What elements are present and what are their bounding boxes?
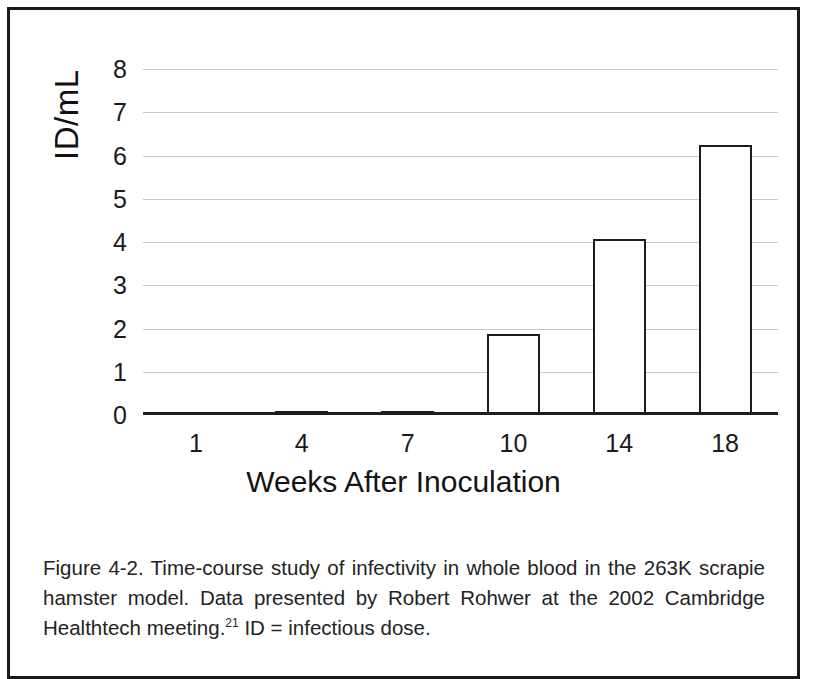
x-tick-label: 18 — [711, 429, 739, 458]
y-tick-label: 4 — [113, 228, 127, 257]
gridline — [143, 156, 778, 157]
x-tick-label: 4 — [295, 429, 309, 458]
y-axis-title: ID/mL — [48, 69, 86, 160]
y-tick-label: 3 — [113, 271, 127, 300]
y-tick-label: 0 — [113, 401, 127, 430]
gridline — [143, 69, 778, 70]
chart-area: ID/mL 012345678 147101418 Weeks After In… — [10, 10, 797, 515]
bar-week-10 — [487, 334, 540, 415]
caption-reference-marker: 21 — [225, 616, 238, 630]
plot-area: 012345678 147101418 — [143, 69, 778, 415]
y-tick-label: 2 — [113, 314, 127, 343]
x-tick-label: 14 — [605, 429, 633, 458]
x-axis-title: Weeks After Inoculation — [10, 465, 797, 499]
x-tick-label: 7 — [401, 429, 415, 458]
x-tick-label: 10 — [500, 429, 528, 458]
x-tick-label: 1 — [189, 429, 203, 458]
caption-text-tail: ID = infectious dose. — [239, 616, 431, 639]
figure-frame: ID/mL 012345678 147101418 Weeks After In… — [7, 7, 800, 679]
gridline — [143, 199, 778, 200]
gridline — [143, 242, 778, 243]
y-tick-label: 7 — [113, 98, 127, 127]
gridline — [143, 112, 778, 113]
gridline — [143, 329, 778, 330]
bar-week-14 — [593, 239, 646, 415]
gridline — [143, 372, 778, 373]
y-tick-label: 1 — [113, 357, 127, 386]
gridline — [143, 285, 778, 286]
y-tick-label: 6 — [113, 141, 127, 170]
bar-week-18 — [699, 145, 752, 415]
y-tick-label: 5 — [113, 184, 127, 213]
y-tick-label: 8 — [113, 55, 127, 84]
figure-caption: Figure 4-2. Time-course study of infecti… — [43, 553, 765, 643]
x-axis-line — [143, 412, 778, 415]
